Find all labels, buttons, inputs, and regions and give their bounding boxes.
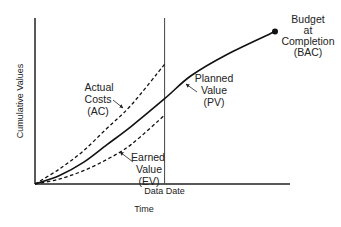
y-axis-label: Cumulative Values [15,63,25,138]
data-date-label: Data Date [144,186,185,196]
svg-text:Planned: Planned [195,72,234,84]
svg-text:(AC): (AC) [87,105,109,117]
ev-label: Earned Value (EV) [120,151,165,187]
svg-text:(PV): (PV) [204,96,225,108]
svg-text:Actual: Actual [84,81,113,93]
ac-label: Actual Costs (AC) [84,81,123,117]
svg-text:Earned: Earned [131,151,165,163]
svg-text:Value: Value [136,163,162,175]
ac-arrow [113,100,123,108]
svg-text:Value: Value [201,84,227,96]
svg-text:Costs: Costs [85,93,112,105]
pv-arrow [186,84,197,92]
evm-chart: Cumulative Values Time Data Date Actual … [0,0,341,227]
bac-point [272,28,278,34]
svg-text:(EV): (EV) [139,175,160,187]
x-axis-label: Time [134,204,154,214]
svg-text:(BAC): (BAC) [294,46,323,58]
bac-label: Budget at Completion (BAC) [281,13,334,58]
pv-label: Planned Value (PV) [186,72,233,108]
